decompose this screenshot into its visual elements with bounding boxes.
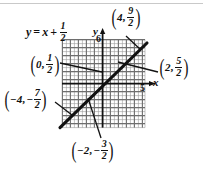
fraction-numerator: 1 <box>47 53 52 63</box>
label-point-0-1over2: ( 0 , 1 2 ) <box>29 53 61 76</box>
left-paren-icon: ( <box>112 9 117 26</box>
coordinate-y-fraction: 7 2 <box>33 88 41 111</box>
coordinate-pair: ( 2 , 5 2 ) <box>158 56 190 79</box>
label-point-neg4-neg7over2: ( − 4 , − 7 2 ) <box>3 88 48 111</box>
coordinate-y-minus-sign: − <box>27 94 34 105</box>
figure-container: y = x + 1 2 y x 6 5 ( 4 , 9 2 ) ( <box>0 0 203 174</box>
label-point-4-9over2: ( 4 , 9 2 ) <box>110 6 142 29</box>
fraction-denominator: 2 <box>35 100 40 110</box>
coordinate-y-fraction: 1 2 <box>46 53 54 76</box>
leader-point-neg4-neg7over2 <box>55 102 72 115</box>
coordinate-pair: ( 0 , 1 2 ) <box>29 53 61 76</box>
equation-rhs-fraction: 1 2 <box>59 21 67 44</box>
fraction-numerator: 7 <box>35 88 40 98</box>
right-paren-icon: ) <box>183 59 188 76</box>
fraction-denominator: 2 <box>47 65 52 75</box>
x-axis-tick-label-5: 5 <box>140 82 145 93</box>
fraction-numerator: 1 <box>61 21 66 31</box>
coordinate-y-fraction: 9 2 <box>127 6 135 29</box>
coordinate-pair: ( 4 , 9 2 ) <box>110 6 142 29</box>
coordinate-pair: ( − 2 , − 3 2 ) <box>70 139 115 162</box>
right-paren-icon: ) <box>135 9 140 26</box>
right-paren-icon: ) <box>109 142 114 159</box>
fraction-denominator: 2 <box>128 18 133 28</box>
y-axis-tick-label-6: 6 <box>96 33 101 44</box>
coordinate-x-minus-sign: − <box>10 94 17 105</box>
fraction-denominator: 2 <box>176 68 181 78</box>
fraction-numerator: 3 <box>102 139 107 149</box>
coordinate-pair: ( − 4 , − 7 2 ) <box>3 88 48 111</box>
equation-label: y = x + 1 2 <box>26 21 67 44</box>
left-paren-icon: ( <box>5 91 10 108</box>
label-point-2-5over2: ( 2 , 5 2 ) <box>158 56 190 79</box>
left-paren-icon: ( <box>160 59 165 76</box>
fraction-numerator: 5 <box>176 56 181 66</box>
fraction-denominator: 2 <box>102 151 107 161</box>
right-paren-icon: ) <box>54 56 59 73</box>
coordinate-x-minus-sign: − <box>77 145 84 156</box>
coordinate-y-fraction: 3 2 <box>100 139 108 162</box>
equation-relation: = <box>31 25 42 40</box>
equation-rhs-operator: + <box>48 25 59 40</box>
label-point-neg2-neg3over2: ( − 2 , − 3 2 ) <box>70 139 115 162</box>
fraction-denominator: 2 <box>61 33 66 43</box>
coordinate-y-minus-sign: − <box>94 145 101 156</box>
left-paren-icon: ( <box>31 56 36 73</box>
fraction-numerator: 9 <box>128 6 133 16</box>
right-paren-icon: ) <box>42 91 47 108</box>
left-paren-icon: ( <box>72 142 77 159</box>
coordinate-y-fraction: 5 2 <box>175 56 183 79</box>
